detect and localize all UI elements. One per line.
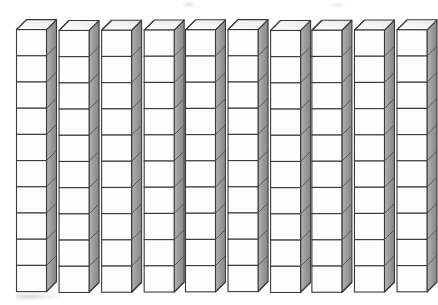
unit-cube-front-face — [271, 135, 301, 161]
unit-cube-front-face — [271, 214, 301, 240]
unit-cube-front-face — [354, 213, 384, 239]
unit-cube-front-face — [144, 109, 174, 135]
unit-cube-front-face — [397, 56, 427, 82]
unit-cube-front-face — [354, 30, 384, 56]
unit-cube-front-face — [354, 82, 384, 108]
unit-cube-front-face — [312, 135, 342, 161]
unit-cube — [59, 30, 89, 56]
unit-cube — [271, 30, 301, 56]
unit-cube-front-face — [59, 240, 89, 266]
unit-cube-front-face — [312, 30, 342, 56]
unit-cube-front-face — [354, 56, 384, 82]
unit-cube-front-face — [59, 266, 89, 292]
unit-cube — [228, 30, 258, 56]
unit-cube-front-face — [102, 240, 132, 266]
unit-cube-front-face — [312, 187, 342, 213]
unit-cube-front-face — [59, 109, 89, 135]
base-ten-rod[interactable] — [185, 20, 225, 292]
unit-cube-front-face — [59, 161, 89, 187]
unit-cube-front-face — [144, 240, 174, 266]
unit-cube-front-face — [185, 108, 215, 134]
unit-cube — [354, 30, 384, 56]
unit-cube-front-face — [185, 239, 215, 265]
unit-cube-front-face — [354, 240, 384, 266]
unit-cube — [102, 30, 132, 56]
unit-cube-front-face — [397, 239, 427, 265]
unit-cube-front-face — [102, 83, 132, 109]
unit-cube-front-face — [228, 134, 258, 160]
unit-cube-front-face — [271, 30, 301, 56]
unit-cube-front-face — [312, 161, 342, 187]
unit-cube-front-face — [102, 161, 132, 187]
base-ten-blocks-illustration — [0, 0, 438, 305]
unit-cube-front-face — [271, 188, 301, 214]
base-ten-rod[interactable] — [17, 20, 57, 292]
unit-cube-front-face — [102, 109, 132, 135]
unit-cube-front-face — [102, 266, 132, 292]
unit-cube-front-face — [397, 30, 427, 56]
unit-cube-front-face — [228, 265, 258, 291]
unit-cube-front-face — [185, 135, 215, 161]
unit-cube-front-face — [228, 82, 258, 108]
unit-cube-front-face — [312, 109, 342, 135]
unit-cube — [144, 30, 174, 56]
unit-cube-front-face — [312, 83, 342, 109]
unit-cube-front-face — [228, 187, 258, 213]
unit-cube-front-face — [228, 108, 258, 134]
base-ten-rod[interactable] — [228, 20, 268, 292]
unit-cube-front-face — [354, 187, 384, 213]
unit-cube-front-face — [354, 135, 384, 161]
unit-cube-front-face — [59, 57, 89, 83]
unit-cube-front-face — [312, 56, 342, 82]
unit-cube-front-face — [17, 161, 47, 187]
unit-cube-front-face — [144, 135, 174, 161]
unit-cube-front-face — [185, 56, 215, 82]
base-ten-rods-group — [0, 0, 438, 305]
unit-cube-front-face — [185, 213, 215, 239]
base-ten-rod[interactable] — [59, 20, 99, 292]
unit-cube-front-face — [102, 30, 132, 56]
unit-cube-front-face — [271, 109, 301, 135]
unit-cube-front-face — [397, 187, 427, 213]
unit-cube-front-face — [228, 213, 258, 239]
unit-cube-front-face — [17, 265, 47, 291]
unit-cube-front-face — [271, 83, 301, 109]
unit-cube-front-face — [312, 266, 342, 292]
unit-cube-front-face — [144, 82, 174, 108]
unit-cube-front-face — [102, 135, 132, 161]
unit-cube-front-face — [17, 56, 47, 82]
unit-cube-front-face — [144, 213, 174, 239]
unit-cube-front-face — [144, 56, 174, 82]
unit-cube-front-face — [59, 135, 89, 161]
base-ten-rod[interactable] — [354, 20, 394, 292]
unit-cube — [17, 30, 47, 56]
base-ten-rod[interactable] — [312, 20, 352, 292]
unit-cube-front-face — [271, 57, 301, 83]
unit-cube-front-face — [397, 108, 427, 134]
unit-cube-front-face — [271, 240, 301, 266]
unit-cube-front-face — [228, 161, 258, 187]
unit-cube-front-face — [59, 214, 89, 240]
unit-cube-front-face — [17, 134, 47, 160]
unit-cube-front-face — [102, 214, 132, 240]
base-ten-rod[interactable] — [102, 20, 142, 292]
unit-cube-front-face — [185, 266, 215, 292]
base-ten-rod[interactable] — [397, 20, 437, 292]
unit-cube-front-face — [354, 109, 384, 135]
base-ten-rod[interactable] — [144, 20, 184, 292]
unit-cube-front-face — [354, 266, 384, 292]
unit-cube-front-face — [185, 82, 215, 108]
unit-cube — [185, 30, 215, 56]
unit-cube-front-face — [17, 187, 47, 213]
unit-cube-front-face — [144, 187, 174, 213]
unit-cube-front-face — [144, 161, 174, 187]
unit-cube-front-face — [144, 266, 174, 292]
unit-cube-front-face — [17, 30, 47, 56]
unit-cube-front-face — [185, 161, 215, 187]
unit-cube-front-face — [185, 187, 215, 213]
unit-cube-front-face — [59, 188, 89, 214]
unit-cube — [312, 30, 342, 56]
unit-cube-front-face — [228, 30, 258, 56]
unit-cube-front-face — [185, 30, 215, 56]
base-ten-rod[interactable] — [271, 20, 311, 292]
